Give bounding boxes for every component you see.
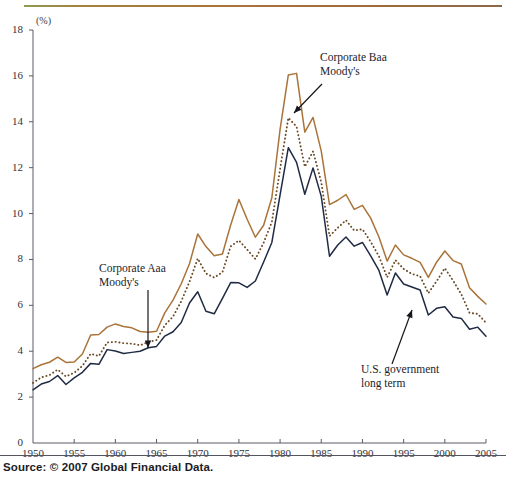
y-tick-label: 16 [1, 69, 23, 81]
annotation-us-government: U.S. government long term [361, 362, 439, 390]
annotation-aaa-line1: Corporate Aaa [99, 261, 166, 275]
y-tick-label: 10 [1, 207, 23, 219]
x-tick-label: 1970 [178, 447, 218, 459]
x-tick-label: 1960 [95, 447, 135, 459]
data-series-line [33, 73, 486, 368]
x-tick-label: 2005 [466, 447, 506, 459]
y-tick-label: 18 [1, 23, 23, 35]
y-tick-label: 8 [1, 252, 23, 264]
figure-root: (%) 024681012141618 19501955196019651970… [0, 0, 506, 485]
x-tick-label: 1975 [219, 447, 259, 459]
annotation-baa-line2: Moody's [320, 64, 387, 78]
x-tick-label: 1990 [342, 447, 382, 459]
y-tick-label: 2 [1, 390, 23, 402]
source-caption: Source: © 2007 Global Financial Data. [3, 461, 213, 473]
y-tick-label: 6 [1, 298, 23, 310]
x-tick-label: 1955 [54, 447, 94, 459]
data-series-line [33, 118, 486, 383]
annotation-corporate-aaa: Corporate Aaa Moody's [99, 261, 166, 289]
x-tick-label: 1985 [301, 447, 341, 459]
x-tick-label: 1950 [13, 447, 53, 459]
series-group [33, 73, 486, 389]
annotation-gov-line1: U.S. government [361, 362, 439, 376]
x-tick-label: 1980 [260, 447, 300, 459]
y-tick-label: 14 [1, 115, 23, 127]
annotation-baa-line1: Corporate Baa [320, 50, 387, 64]
annotation-leader-lines [145, 84, 413, 364]
y-tick-label: 4 [1, 344, 23, 356]
x-tick-label: 1995 [384, 447, 424, 459]
annotation-aaa-line2: Moody's [99, 275, 166, 289]
annotation-gov-line2: long term [361, 376, 439, 390]
source-divider-rule [0, 455, 506, 456]
annotation-corporate-baa: Corporate Baa Moody's [320, 50, 387, 78]
y-tick-label: 12 [1, 161, 23, 173]
x-tick-label: 1965 [137, 447, 177, 459]
x-tick-label: 2000 [425, 447, 465, 459]
